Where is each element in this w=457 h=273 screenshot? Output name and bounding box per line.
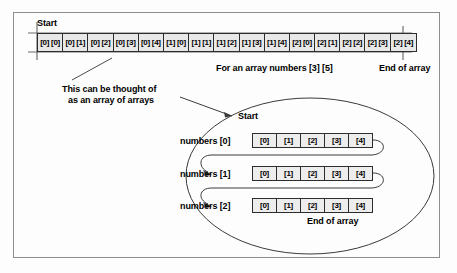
sub-array-cell: [0]	[253, 167, 277, 180]
array-cell: [1] [4]	[265, 34, 290, 51]
sub-array-cell: [0]	[253, 199, 277, 212]
array-cell: [2] [4]	[391, 34, 416, 51]
top-array-caption: For an array numbers [3] [5]	[216, 63, 333, 73]
sub-array-cell: [2]	[301, 199, 325, 212]
array-cell: [1] [2]	[214, 34, 239, 51]
array-cell: [2] [3]	[365, 34, 390, 51]
row-label-numbers-0: numbers [0]	[180, 136, 230, 146]
top-start-label: Start	[37, 18, 57, 28]
array-cell: [2] [1]	[315, 34, 340, 51]
bottom-start-label: Start	[238, 111, 258, 121]
bottom-end-of-array-label: End of array	[307, 216, 358, 226]
array-cell: [1] [1]	[189, 34, 214, 51]
array-cell: [0] [3]	[114, 34, 139, 51]
array-cell: [0] [2]	[88, 34, 113, 51]
sub-array-cell: [3]	[325, 199, 349, 212]
array-cell: [1] [3]	[240, 34, 265, 51]
sub-array-cell: [4]	[349, 199, 372, 212]
sub-array-cell: [4]	[349, 134, 372, 147]
sub-array-cell: [3]	[325, 134, 349, 147]
sub-array-cell: [2]	[301, 134, 325, 147]
sub-array-cell: [1]	[277, 199, 301, 212]
annotation-line-1: This can be thought of	[62, 84, 156, 94]
sub-array-cell: [4]	[349, 167, 372, 180]
sub-array-cell: [1]	[277, 167, 301, 180]
row-label-numbers-2: numbers [2]	[180, 201, 230, 211]
sub-array-cell: [2]	[301, 167, 325, 180]
annotation-leader-line	[72, 58, 112, 80]
sub-array-row: [0] [1] [2] [3] [4]	[252, 133, 373, 148]
array-cell: [2] [0]	[290, 34, 315, 51]
linear-array: [0] [0] [0] [1] [0] [2] [0] [3] [0] [4] …	[37, 33, 417, 52]
sub-array-cell: [3]	[325, 167, 349, 180]
array-cell: [0] [0]	[38, 34, 63, 51]
annotation-line-2: as an array of arrays	[68, 95, 154, 105]
sub-array-cell: [0]	[253, 134, 277, 147]
sub-array-row: [0] [1] [2] [3] [4]	[252, 166, 373, 181]
start-arrowhead	[224, 112, 232, 118]
array-cell: [0] [4]	[139, 34, 164, 51]
sub-array-cell: [1]	[277, 134, 301, 147]
top-end-of-array-label: End of array	[379, 63, 430, 73]
sub-array-row: [0] [1] [2] [3] [4]	[252, 198, 373, 213]
array-cell: [0] [1]	[63, 34, 88, 51]
array-cell: [1] [0]	[164, 34, 189, 51]
annotation-to-start-leader	[180, 97, 232, 116]
row-label-numbers-1: numbers [1]	[180, 169, 230, 179]
array-diagram-figure: Start [0] [0] [0] [1] [0] [2] [0] [3] [0…	[0, 0, 457, 273]
array-cell: [2] [2]	[340, 34, 365, 51]
